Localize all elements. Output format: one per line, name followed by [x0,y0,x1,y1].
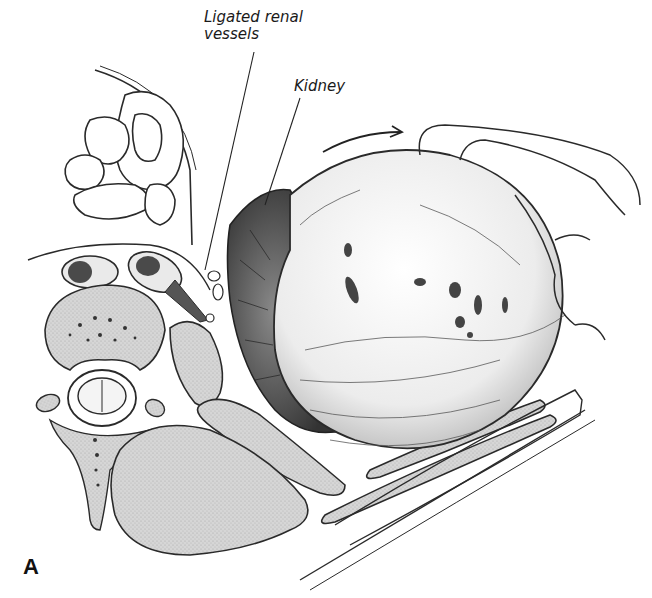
vertebral-body [45,285,165,370]
label-kidney: Kidney [294,78,345,95]
label-ligated-renal-vessels: Ligated renal vessels [204,9,344,43]
panel-letter: A [23,554,39,580]
ligated-renal-vessels [206,271,223,322]
intestinal-loops [65,92,183,225]
psoas-muscle [170,322,222,407]
rotation-arrow [323,132,401,152]
renal-mass [274,150,563,448]
